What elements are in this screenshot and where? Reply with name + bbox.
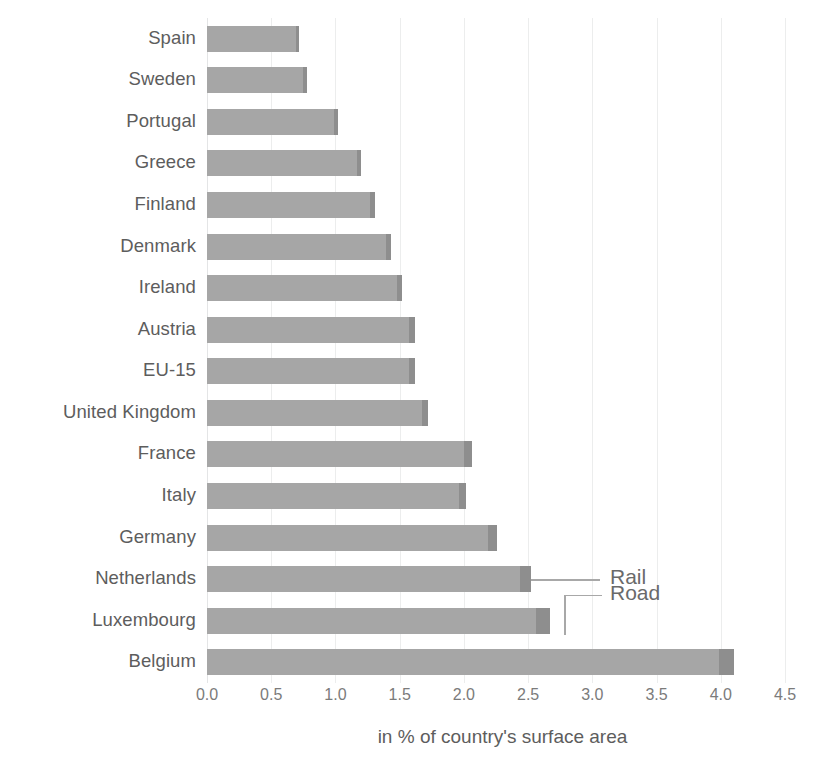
bar-segment-rail: [409, 317, 415, 343]
bar-row: [207, 150, 785, 176]
bar-segment-road: [207, 441, 464, 467]
gridline: [785, 18, 786, 683]
bar-segment-road: [207, 525, 488, 551]
bar-segment-road: [207, 358, 409, 384]
bar-row: [207, 608, 785, 634]
chart-root: SpainSwedenPortugalGreeceFinlandDenmarkI…: [0, 0, 835, 783]
y-axis-label-denmark: Denmark: [0, 235, 196, 257]
bar-ireland: [207, 275, 402, 301]
y-axis-label-germany: Germany: [0, 526, 196, 548]
x-tick-1-5: 1.5: [389, 686, 411, 704]
bar-eu-15: [207, 358, 415, 384]
bar-segment-rail: [536, 608, 550, 634]
bar-luxembourg: [207, 608, 550, 634]
bar-row: [207, 566, 785, 592]
y-axis-label-luxembourg: Luxembourg: [0, 609, 196, 631]
bar-portugal: [207, 109, 338, 135]
bar-finland: [207, 192, 375, 218]
bar-segment-rail: [459, 483, 467, 509]
y-axis-label-france: France: [0, 442, 196, 464]
y-axis-label-sweden: Sweden: [0, 68, 196, 90]
bar-row: [207, 109, 785, 135]
x-axis-tick-labels: 0.00.51.01.52.02.53.03.54.04.5: [207, 686, 785, 712]
bar-segment-road: [207, 234, 386, 260]
bar-segment-road: [207, 26, 296, 52]
y-axis-label-belgium: Belgium: [0, 650, 196, 672]
bar-segment-road: [207, 649, 719, 675]
x-tick-4-0: 4.0: [710, 686, 732, 704]
bar-united-kingdom: [207, 400, 428, 426]
bar-belgium: [207, 649, 734, 675]
bar-segment-rail: [409, 358, 415, 384]
bar-segment-rail: [488, 525, 497, 551]
bar-segment-road: [207, 150, 357, 176]
bar-segment-rail: [370, 192, 375, 218]
bar-segment-rail: [296, 26, 300, 52]
bar-sweden: [207, 67, 307, 93]
bar-row: [207, 192, 785, 218]
bar-segment-road: [207, 483, 459, 509]
bar-row: [207, 275, 785, 301]
bar-segment-road: [207, 400, 422, 426]
bar-segment-rail: [303, 67, 307, 93]
bar-spain: [207, 26, 299, 52]
bar-segment-road: [207, 566, 520, 592]
bar-segment-rail: [357, 150, 361, 176]
bar-segment-road: [207, 608, 536, 634]
x-tick-2-0: 2.0: [453, 686, 475, 704]
bar-segment-road: [207, 67, 303, 93]
y-axis-label-united-kingdom: United Kingdom: [0, 401, 196, 423]
x-tick-3-0: 3.0: [581, 686, 603, 704]
y-axis-label-ireland: Ireland: [0, 276, 196, 298]
bar-segment-rail: [464, 441, 472, 467]
y-axis-label-portugal: Portugal: [0, 110, 196, 132]
bar-series-group: [207, 18, 785, 683]
bar-denmark: [207, 234, 391, 260]
y-axis-label-greece: Greece: [0, 151, 196, 173]
bar-italy: [207, 483, 466, 509]
y-axis-label-austria: Austria: [0, 318, 196, 340]
bar-austria: [207, 317, 415, 343]
bar-row: [207, 525, 785, 551]
x-tick-2-5: 2.5: [517, 686, 539, 704]
bar-segment-road: [207, 109, 334, 135]
plot-area: [207, 18, 785, 683]
bar-row: [207, 483, 785, 509]
bar-row: [207, 234, 785, 260]
bar-segment-road: [207, 275, 397, 301]
bar-row: [207, 358, 785, 384]
y-axis-label-finland: Finland: [0, 193, 196, 215]
x-tick-0-5: 0.5: [260, 686, 282, 704]
x-tick-1-0: 1.0: [324, 686, 346, 704]
bar-greece: [207, 150, 361, 176]
x-tick-0-0: 0.0: [196, 686, 218, 704]
bar-segment-rail: [719, 649, 733, 675]
x-tick-4-5: 4.5: [774, 686, 796, 704]
y-axis-category-labels: SpainSwedenPortugalGreeceFinlandDenmarkI…: [0, 18, 196, 683]
bar-segment-road: [207, 192, 370, 218]
bar-row: [207, 67, 785, 93]
bar-row: [207, 400, 785, 426]
y-axis-label-netherlands: Netherlands: [0, 567, 196, 589]
bar-row: [207, 317, 785, 343]
bar-segment-rail: [397, 275, 402, 301]
bar-france: [207, 441, 472, 467]
bar-segment-rail: [334, 109, 338, 135]
x-tick-3-5: 3.5: [645, 686, 667, 704]
bar-row: [207, 441, 785, 467]
y-axis-label-spain: Spain: [0, 27, 196, 49]
x-axis-title: in % of country's surface area: [0, 726, 835, 748]
bar-segment-road: [207, 317, 409, 343]
y-axis-label-eu-15: EU-15: [0, 359, 196, 381]
bar-row: [207, 649, 785, 675]
y-axis-label-italy: Italy: [0, 484, 196, 506]
bar-segment-rail: [422, 400, 428, 426]
bar-row: [207, 26, 785, 52]
bar-segment-rail: [386, 234, 391, 260]
bar-germany: [207, 525, 497, 551]
bar-netherlands: [207, 566, 531, 592]
bar-segment-rail: [520, 566, 530, 592]
